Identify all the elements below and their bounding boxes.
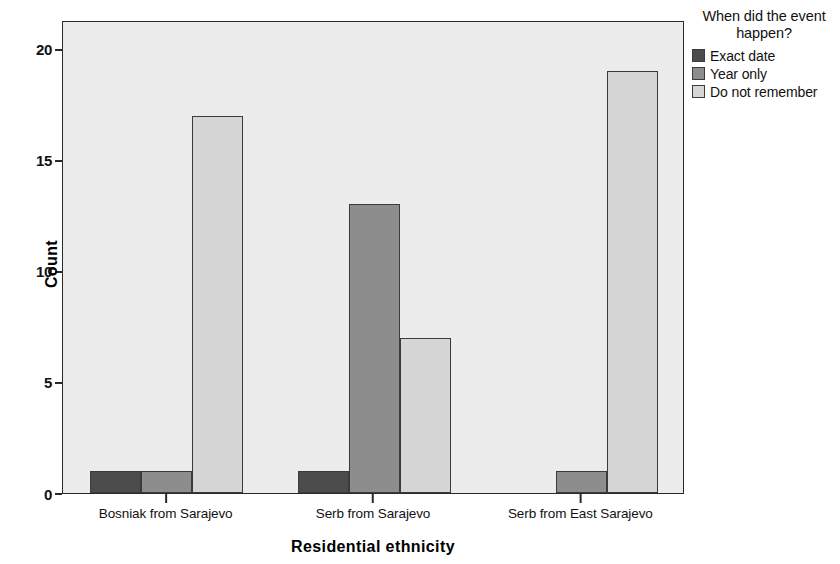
legend-swatch-icon xyxy=(692,67,705,80)
y-tick-label: 20 xyxy=(36,42,55,57)
plot-area xyxy=(62,21,684,494)
y-tick-mark xyxy=(55,49,62,51)
x-tick: Bosniak from Sarajevo xyxy=(99,494,233,521)
y-tick-label: 5 xyxy=(44,375,55,390)
x-tick: Serb from Sarajevo xyxy=(316,494,431,521)
bar xyxy=(90,471,141,493)
y-tick-label: 15 xyxy=(36,153,55,168)
bar xyxy=(607,71,658,493)
x-tick-mark xyxy=(372,494,374,503)
legend-entry-label: Do not remember xyxy=(710,84,817,100)
legend-items: Exact dateYear onlyDo not remember xyxy=(692,48,840,100)
y-axis-title: Count xyxy=(43,204,61,324)
legend-entry-label: Exact date xyxy=(710,48,775,64)
bar-chart-figure: 05101520 Count Bosniak from SarajevoSerb… xyxy=(0,0,840,564)
x-axis: Bosniak from SarajevoSerb from SarajevoS… xyxy=(62,494,684,540)
legend-entry-label: Year only xyxy=(710,66,767,82)
legend-swatch-icon xyxy=(692,49,705,62)
bar xyxy=(298,471,349,493)
x-tick-mark xyxy=(165,494,167,503)
x-tick: Serb from East Sarajevo xyxy=(508,494,653,521)
bar xyxy=(141,471,192,493)
legend-entry[interactable]: Year only xyxy=(692,66,840,82)
bar xyxy=(192,116,243,494)
bar xyxy=(400,338,451,493)
y-tick-mark xyxy=(55,382,62,384)
y-tick-mark xyxy=(55,160,62,162)
x-tick-label: Serb from Sarajevo xyxy=(316,506,431,521)
legend-entry[interactable]: Do not remember xyxy=(692,84,840,100)
y-tick-mark xyxy=(55,493,62,495)
legend-title: When did the event happen? xyxy=(692,8,836,43)
x-tick-label: Serb from East Sarajevo xyxy=(508,506,653,521)
legend: When did the event happen? Exact dateYea… xyxy=(692,8,840,102)
bar xyxy=(349,204,400,493)
bar xyxy=(556,471,607,493)
x-tick-label: Bosniak from Sarajevo xyxy=(99,506,233,521)
legend-swatch-icon xyxy=(692,85,705,98)
y-tick-label: 0 xyxy=(44,487,55,502)
x-tick-mark xyxy=(579,494,581,503)
x-axis-title: Residential ethnicity xyxy=(62,538,684,556)
legend-entry[interactable]: Exact date xyxy=(692,48,840,64)
